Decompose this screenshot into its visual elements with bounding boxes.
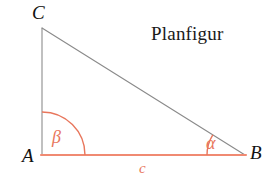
vertex-label-b: B [250, 143, 262, 162]
vertex-label-a: A [22, 146, 34, 165]
angle-label-alpha: α [206, 134, 215, 152]
figure-caption: Planfigur [151, 24, 224, 43]
side-label-c: c [139, 161, 146, 176]
angle-label-beta: β [52, 128, 61, 146]
plan-figure-canvas: C A B β α c Planfigur [0, 0, 275, 186]
vertex-label-c: C [32, 3, 45, 22]
triangle-figure-svg [0, 0, 275, 186]
angle-beta-arc [42, 112, 85, 155]
